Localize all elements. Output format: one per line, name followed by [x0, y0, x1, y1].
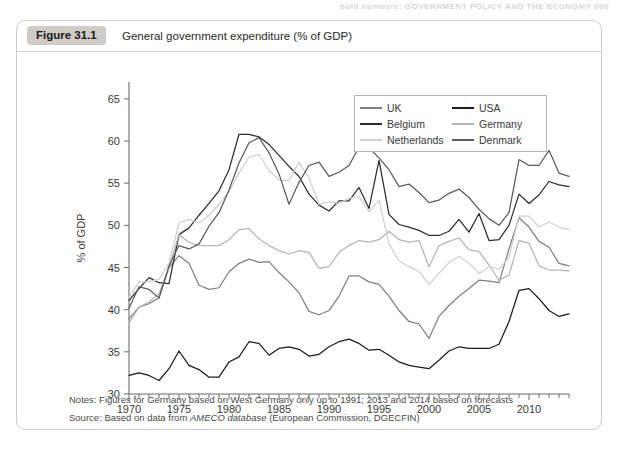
y-axis-title: % of GDP — [75, 214, 87, 263]
figure-title: General government expenditure (% of GDP… — [122, 30, 352, 42]
legend-item-netherlands[interactable]: Netherlands — [360, 134, 452, 146]
legend-item-uk[interactable]: UK — [360, 102, 452, 114]
y-tick-label: 55 — [108, 177, 120, 189]
page-root: bold numbers: GOVERNMENT POLICY AND THE … — [0, 0, 627, 452]
legend-item-denmark[interactable]: Denmark — [452, 134, 544, 146]
legend-swatch-uk-icon — [360, 107, 382, 109]
chart-plot-area: 3035404550556065197019751980198519901995… — [17, 52, 601, 430]
legend-label: Denmark — [479, 134, 522, 146]
legend-swatch-denmark-icon — [452, 139, 474, 141]
legend-label: Belgium — [387, 118, 425, 130]
legend-item-usa[interactable]: USA — [452, 102, 544, 114]
series-line-denmark — [129, 138, 569, 308]
x-tick-label: 2010 — [517, 403, 541, 415]
y-tick-label: 50 — [108, 219, 120, 231]
legend-swatch-belgium-icon — [360, 123, 382, 125]
source-suffix: (European Commission, DGECFIN) — [267, 412, 420, 423]
legend-label: Germany — [479, 118, 522, 130]
legend-entries: UKUSABelgiumGermanyNetherlandsDenmark — [360, 100, 543, 148]
source-prefix: Source: Based on data from — [69, 412, 190, 423]
source-database-name: AMECO database — [190, 412, 267, 423]
legend-item-germany[interactable]: Germany — [452, 118, 544, 130]
y-tick-label: 35 — [108, 346, 120, 358]
figure-notes: Notes: Figures for Germany based on West… — [69, 394, 513, 405]
y-tick-label: 40 — [108, 304, 120, 316]
figure-source: Source: Based on data from AMECO databas… — [69, 412, 420, 423]
y-tick-label: 60 — [108, 135, 120, 147]
page-header-bleed-text: bold numbers: GOVERNMENT POLICY AND THE … — [340, 2, 609, 11]
figure-panel: Figure 31.1 General government expenditu… — [16, 20, 602, 430]
legend-label: UK — [387, 102, 402, 114]
y-tick-label: 45 — [108, 262, 120, 274]
legend-item-belgium[interactable]: Belgium — [360, 118, 452, 130]
legend-label: Netherlands — [387, 134, 444, 146]
y-tick-label: 65 — [108, 93, 120, 105]
figure-header: Figure 31.1 General government expenditu… — [17, 21, 601, 52]
legend-label: USA — [479, 102, 501, 114]
series-line-usa — [129, 289, 569, 381]
legend-swatch-netherlands-icon — [360, 139, 382, 141]
legend-swatch-germany-icon — [452, 123, 474, 125]
figure-number-badge: Figure 31.1 — [27, 26, 106, 45]
chart-legend: UKUSABelgiumGermanyNetherlandsDenmark — [354, 95, 547, 152]
legend-swatch-usa-icon — [452, 107, 474, 109]
